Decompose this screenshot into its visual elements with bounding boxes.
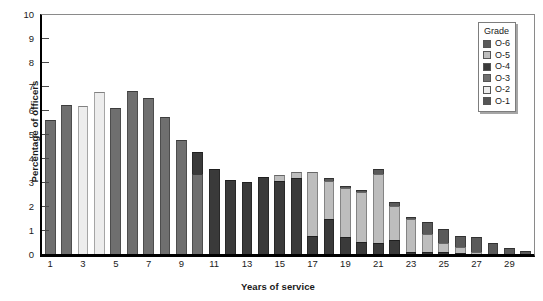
bar-segment bbox=[438, 229, 449, 243]
bar[interactable] bbox=[78, 106, 89, 254]
legend-swatch-icon bbox=[483, 74, 491, 82]
bar[interactable] bbox=[406, 217, 417, 254]
bar-segment bbox=[274, 181, 285, 254]
bar-segment bbox=[438, 252, 449, 254]
bar[interactable] bbox=[209, 169, 220, 254]
x-axis-tick-label: 15 bbox=[275, 258, 286, 269]
bar-segment bbox=[356, 242, 367, 254]
bar-segment bbox=[356, 192, 367, 242]
bar[interactable] bbox=[192, 152, 203, 254]
bar[interactable] bbox=[94, 92, 105, 254]
bar[interactable] bbox=[438, 229, 449, 254]
bar[interactable] bbox=[324, 178, 335, 254]
bar-segment bbox=[94, 92, 105, 254]
bar-segment bbox=[324, 181, 335, 219]
y-axis-tick bbox=[42, 110, 49, 111]
x-axis-tick-label: 5 bbox=[113, 258, 118, 269]
legend-item[interactable]: O-3 bbox=[483, 73, 510, 84]
bar-segment bbox=[258, 177, 269, 254]
bar-segment bbox=[160, 117, 171, 254]
y-axis-tick bbox=[42, 134, 49, 135]
bar-segment bbox=[340, 188, 351, 237]
x-axis-title: Years of service bbox=[28, 281, 528, 292]
bar[interactable] bbox=[340, 186, 351, 254]
bar-chart: Percentage of officers 012345678910 1357… bbox=[0, 0, 543, 301]
bar-segment bbox=[61, 105, 72, 254]
bar[interactable] bbox=[422, 222, 433, 254]
bar-segment bbox=[176, 140, 187, 254]
y-axis-tick bbox=[42, 62, 49, 63]
y-axis-tick-label: 3 bbox=[29, 177, 34, 188]
bar-segment bbox=[520, 251, 531, 254]
y-axis-tick-label: 9 bbox=[29, 33, 34, 44]
bar[interactable] bbox=[225, 180, 236, 254]
y-axis-tick-label: 7 bbox=[29, 81, 34, 92]
x-axis-tick-label: 7 bbox=[146, 258, 151, 269]
legend-item[interactable]: O-5 bbox=[483, 50, 510, 61]
bar-segment bbox=[192, 174, 203, 254]
y-axis-tick-label: 2 bbox=[29, 201, 34, 212]
bar-segment bbox=[242, 182, 253, 254]
bar-segment bbox=[127, 91, 138, 254]
bar[interactable] bbox=[356, 190, 367, 254]
y-axis-tick bbox=[42, 230, 49, 231]
legend-item-label: O-4 bbox=[495, 62, 510, 71]
bar-segment bbox=[110, 108, 121, 254]
legend-item[interactable]: O-1 bbox=[483, 96, 510, 107]
y-axis-tick bbox=[42, 182, 49, 183]
bar[interactable] bbox=[160, 117, 171, 254]
bar-segment bbox=[373, 174, 384, 244]
bar[interactable] bbox=[258, 177, 269, 254]
bar[interactable] bbox=[520, 251, 531, 254]
bar[interactable] bbox=[127, 91, 138, 254]
bar[interactable] bbox=[45, 120, 56, 254]
legend-item-label: O-2 bbox=[495, 85, 510, 94]
legend-item[interactable]: O-2 bbox=[483, 84, 510, 95]
bar[interactable] bbox=[488, 243, 499, 254]
x-axis-tick-label: 13 bbox=[242, 258, 253, 269]
bar-segment bbox=[209, 169, 220, 254]
bar-segment bbox=[455, 236, 466, 247]
bar[interactable] bbox=[176, 140, 187, 254]
x-axis-tick-label: 25 bbox=[439, 258, 450, 269]
legend-item[interactable]: O-6 bbox=[483, 38, 510, 49]
bar[interactable] bbox=[389, 202, 400, 254]
bars-layer bbox=[42, 14, 534, 254]
bar-segment bbox=[438, 243, 449, 251]
bar[interactable] bbox=[471, 237, 482, 254]
bar-segment bbox=[422, 222, 433, 234]
bar[interactable] bbox=[242, 182, 253, 254]
x-axis-tick-label: 17 bbox=[307, 258, 318, 269]
bar-segment bbox=[488, 243, 499, 254]
y-axis-tick bbox=[42, 38, 49, 39]
y-axis-tick-label: 6 bbox=[29, 105, 34, 116]
legend-item-label: O-1 bbox=[495, 97, 510, 106]
x-axis-tick-label: 11 bbox=[209, 258, 219, 269]
bar[interactable] bbox=[110, 108, 121, 254]
x-axis-tick-label: 3 bbox=[80, 258, 85, 269]
bar[interactable] bbox=[504, 248, 515, 254]
x-axis-tick-labels: 1357911131517192123252729 bbox=[0, 258, 543, 278]
legend-item-label: O-6 bbox=[495, 39, 510, 48]
y-axis-tick-label: 4 bbox=[29, 153, 34, 164]
bar[interactable] bbox=[373, 169, 384, 254]
bar-segment bbox=[291, 178, 302, 254]
bar-segment bbox=[471, 252, 482, 254]
bar-segment bbox=[324, 219, 335, 254]
bar-segment bbox=[143, 98, 154, 254]
legend-item[interactable]: O-4 bbox=[483, 61, 510, 72]
bar-segment bbox=[78, 106, 89, 254]
bar[interactable] bbox=[274, 175, 285, 254]
bar[interactable] bbox=[143, 98, 154, 254]
legend-item-label: O-5 bbox=[495, 51, 510, 60]
bar-segment bbox=[373, 243, 384, 254]
bar[interactable] bbox=[61, 105, 72, 254]
bar[interactable] bbox=[455, 236, 466, 254]
bar[interactable] bbox=[307, 172, 318, 254]
bar-segment bbox=[389, 206, 400, 240]
x-axis-tick-label: 1 bbox=[48, 258, 53, 269]
bar-segment bbox=[504, 248, 515, 254]
x-axis-tick-label: 29 bbox=[504, 258, 515, 269]
bar[interactable] bbox=[291, 172, 302, 254]
y-axis-tick bbox=[42, 158, 49, 159]
